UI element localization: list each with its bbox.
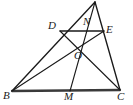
geometry-figure: B C D E M N O <box>0 0 133 105</box>
vertex-label-N: N <box>83 16 90 27</box>
segment-layer <box>12 2 120 91</box>
vertex-label-E: E <box>106 24 113 35</box>
vertex-label-O: O <box>74 50 82 61</box>
vertex-label-C: C <box>117 91 124 102</box>
side-AC <box>95 2 120 90</box>
vertex-label-M: M <box>64 91 73 102</box>
vertex-label-D: D <box>48 20 56 31</box>
vertex-label-B: B <box>3 90 10 101</box>
